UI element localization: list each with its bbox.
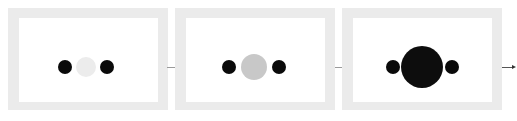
center-circle-icon [76, 57, 96, 77]
center-circle-icon [401, 46, 443, 88]
left-dot-icon [222, 60, 236, 74]
panel-stage-3 [342, 8, 502, 110]
right-dot-icon [272, 60, 286, 74]
center-circle-icon [241, 54, 267, 80]
left-dot-icon [58, 60, 72, 74]
connector-line [502, 67, 512, 68]
arrow-right-icon [512, 65, 516, 69]
panel-stage-2 [175, 8, 335, 110]
connector-line [335, 67, 342, 68]
left-dot-icon [386, 60, 400, 74]
right-dot-icon [445, 60, 459, 74]
right-dot-icon [100, 60, 114, 74]
connector-line [167, 67, 175, 68]
panel-stage-1 [8, 8, 168, 110]
